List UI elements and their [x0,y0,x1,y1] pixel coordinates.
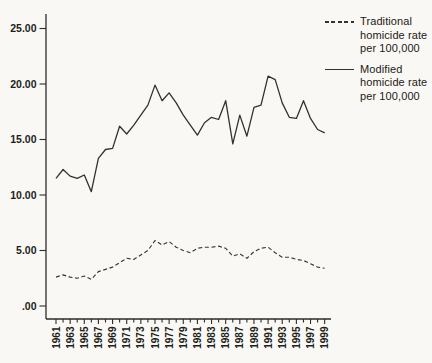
x-tick-label: 1973 [135,326,146,349]
dashed-line-swatch [325,21,354,23]
x-tick-label: 1967 [93,326,104,349]
x-tick-label: 1975 [150,326,161,349]
x-tick-label: 1961 [51,326,62,349]
x-tick-label: 1979 [178,326,189,349]
legend-item-traditional: Traditional homicide rate per 100,000 [325,15,431,56]
y-tick-label: 25.00 [10,22,36,34]
x-tick-label: 1999 [319,326,330,349]
y-tick-label: 5.00 [16,244,37,256]
modified-line [56,76,325,192]
x-tick-label: 1997 [305,326,316,349]
legend-label-traditional: Traditional homicide rate per 100,000 [360,15,427,56]
y-tick-label: 10.00 [10,189,36,201]
x-tick-label: 1987 [234,326,245,349]
x-tick-label: 1983 [206,326,217,349]
x-tick-label: 1963 [65,326,76,349]
homicide-rate-chart: 25.0020.0015.0010.005.00.001961196319651… [0,0,432,363]
x-tick-label: 1993 [277,326,288,349]
x-tick-label: 1995 [291,326,302,349]
y-tick-label: 20.00 [10,78,36,90]
x-tick-label: 1985 [220,326,231,349]
legend: Traditional homicide rate per 100,000 Mo… [325,15,431,110]
legend-item-modified: Modified homicide rate per 100,000 [325,63,431,104]
solid-line-swatch [325,69,354,71]
y-tick-label: .00 [22,300,37,312]
x-tick-label: 1991 [263,326,274,349]
x-tick-label: 1965 [79,326,90,349]
x-tick-label: 1977 [164,326,175,349]
traditional-line [56,241,325,280]
x-tick-label: 1969 [107,326,118,349]
legend-label-modified: Modified homicide rate per 100,000 [360,63,427,104]
x-tick-label: 1981 [192,326,203,349]
x-tick-label: 1989 [249,326,260,349]
x-tick-label: 1971 [121,326,132,349]
y-tick-label: 15.00 [10,133,36,145]
